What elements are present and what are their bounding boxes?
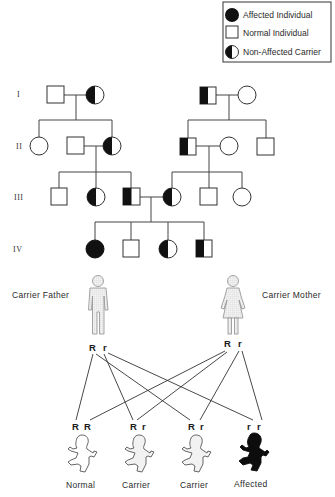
individual-II-4-male-carrier (180, 138, 196, 155)
individual-III-3-male-carrier (123, 188, 140, 205)
individual-III-2-female-carrier (87, 188, 105, 206)
generation-IV (86, 240, 212, 258)
carrier-mother-label: Carrier Mother (262, 290, 321, 300)
father-figure-icon (89, 276, 109, 335)
pedigree-lines (39, 95, 266, 240)
offspring-4-allele-2: r (257, 421, 261, 432)
offspring-3-allele-2: r (200, 421, 204, 432)
individual-II-3-female-carrier (103, 137, 121, 155)
inheritance-lines (76, 351, 262, 420)
baby-carrier-icon (125, 435, 154, 472)
mother-allele-1: R (224, 338, 231, 349)
individual-II-5-female-normal (220, 137, 238, 155)
individual-III-1-male-normal (51, 188, 67, 205)
individual-II-6-male-normal (257, 138, 274, 155)
individual-I-3-male-carrier (200, 87, 216, 104)
individual-II-1-female-normal (30, 137, 48, 155)
individual-III-6-female-normal (233, 188, 251, 206)
individual-IV-2-male-normal (123, 240, 139, 257)
offspring-label-normal: Normal (66, 480, 95, 490)
baby-normal-icon (68, 435, 97, 472)
offspring-label-carrier-2: Carrier (180, 480, 208, 490)
carrier-father-label: Carrier Father (12, 290, 69, 300)
offspring-label-affected: Affected (234, 479, 267, 489)
father-allele-2: r (103, 342, 107, 353)
offspring-label-carrier-1: Carrier (122, 480, 150, 490)
normal-symbol-icon (226, 26, 238, 38)
mother-alleles: R r (224, 338, 242, 349)
mother-figure-icon (221, 276, 245, 335)
individual-IV-4-male-carrier (196, 240, 212, 257)
individual-II-2-male-normal (67, 137, 84, 154)
offspring-1-allele-2: R (84, 421, 91, 432)
father-allele-1: R (89, 342, 96, 353)
offspring-2-allele-2: r (142, 421, 146, 432)
legend-box: Affected Individual Normal Individual No… (223, 2, 331, 62)
legend-label-normal: Normal Individual (243, 28, 309, 38)
offspring-4-allele-1: r (247, 421, 251, 432)
offspring-1-allele-1: R (72, 421, 79, 432)
baby-affected-icon (239, 433, 269, 471)
individual-I-1-male-normal (47, 86, 64, 103)
legend-label-carrier: Non-Affected Carrier (243, 47, 321, 57)
offspring-3-allele-1: R (188, 421, 195, 432)
generation-label-I: I (17, 90, 20, 99)
individual-IV-1-female-affected (86, 240, 104, 258)
affected-symbol-icon (225, 8, 239, 22)
offspring-alleles: R R R r R r r r (72, 421, 261, 432)
legend-item-normal: Normal Individual (226, 26, 309, 38)
baby-carrier-icon-2 (182, 435, 211, 472)
mother-allele-2: r (238, 338, 242, 349)
offspring-2-allele-1: R (130, 421, 137, 432)
genetics-diagram: Affected Individual Normal Individual No… (0, 0, 335, 497)
generation-label-II: II (16, 142, 22, 151)
generation-label-IV: IV (13, 245, 22, 254)
generation-label-III: III (14, 193, 24, 202)
father-alleles: R r (89, 342, 107, 353)
individual-III-4-female-carrier (163, 188, 181, 206)
generation-II (30, 137, 274, 155)
individual-I-2-female-carrier (86, 86, 104, 104)
individual-III-5-male-normal (200, 188, 217, 205)
individual-I-4-female-normal (238, 86, 256, 104)
legend-label-affected: Affected Individual (243, 10, 312, 20)
individual-IV-3-female-carrier (159, 240, 177, 258)
